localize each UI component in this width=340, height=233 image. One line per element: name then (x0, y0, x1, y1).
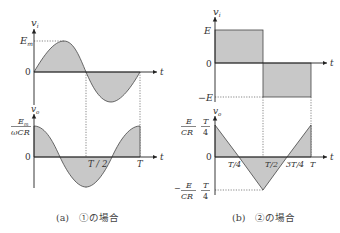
vi-label: vi (213, 6, 221, 18)
triangle-fill-2 (239, 157, 287, 190)
pos-amp-num-left: E (185, 117, 192, 126)
panel-b-output-plot: vo E T CR 4 0 − E T CR 4 T/4 T/2 3T/4 T … (174, 106, 334, 201)
t-label: t (330, 152, 334, 162)
zero-label: 0 (206, 59, 212, 69)
neg-e-label: −E (198, 92, 213, 103)
zero-label: 0 (25, 152, 31, 162)
triangle-fill-1 (215, 125, 239, 157)
em-label: Em (19, 35, 33, 47)
square-positive-fill (215, 30, 263, 63)
period-label: T (310, 160, 316, 169)
triangle-fill-3 (287, 125, 311, 157)
pos-amp-den-left: CR (181, 128, 193, 137)
neg-amp-num-left: E (185, 181, 192, 190)
zero-label: 0 (25, 67, 31, 77)
vi-label: vi (31, 17, 39, 29)
pos-amp-num-right: T (203, 117, 209, 126)
cosine-wave-fill (34, 126, 140, 187)
zero-label: 0 (206, 152, 212, 162)
neg-amp-sign: − (174, 184, 181, 193)
period-label: T (137, 159, 144, 169)
half-period-label: T/2 (265, 160, 278, 169)
caption-b: (b) ②の場合 (232, 212, 296, 223)
waveform-diagram: vi t Em 0 vo Em ωCR 0 T / 2 T t (a) ①の場合 (0, 0, 340, 233)
neg-amp-den-right: 4 (203, 192, 208, 201)
t-label: t (160, 67, 164, 77)
panel-a: vi t Em 0 vo Em ωCR 0 T / 2 T t (a) ①の場合 (11, 17, 164, 223)
half-period-label: T / 2 (88, 159, 107, 169)
amp-denominator: ωCR (11, 128, 30, 137)
neg-amp-num-right: T (203, 181, 209, 190)
sine-wave-fill (34, 41, 140, 102)
caption-a: (a) ①の場合 (56, 212, 119, 223)
panel-b: vi t E 0 −E vo E T CR 4 0 − E T (174, 6, 334, 223)
vo-label: vo (31, 104, 40, 115)
panel-a-output-plot: vo Em ωCR 0 T / 2 T t (11, 104, 164, 188)
t-label: t (160, 152, 164, 162)
pos-amp-den-right: 4 (203, 128, 208, 137)
amp-numerator: Em (17, 117, 29, 127)
quarter-period-label: T/4 (228, 160, 241, 169)
t-label: t (330, 58, 334, 68)
neg-amp-den-left: CR (181, 192, 193, 201)
square-negative-fill (263, 63, 311, 97)
vo-label: vo (213, 106, 222, 117)
e-label: E (203, 25, 211, 36)
three-quarter-period-label: 3T/4 (286, 160, 304, 169)
